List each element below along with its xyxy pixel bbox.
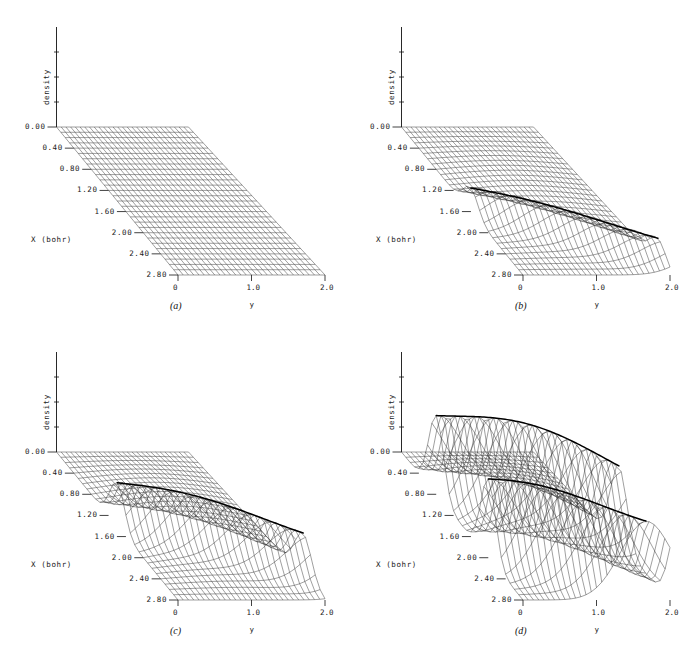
x-tick-label: 0.00	[357, 447, 391, 456]
x-tick-label: 2.00	[98, 228, 132, 237]
density-axis-label: density	[387, 69, 396, 105]
y-tick-label: 2.0	[665, 283, 679, 292]
y-tick-label: 2.0	[665, 608, 679, 617]
x-tick-label: 1.60	[81, 207, 115, 216]
mesh-surface	[57, 127, 326, 275]
x-tick-label: 1.60	[426, 207, 460, 216]
surface-panel-a: density0.000.400.801.201.602.002.402.80X…	[0, 0, 345, 325]
surface-panel-c: density0.000.400.801.201.602.002.402.80X…	[0, 325, 345, 650]
x-tick-label: 0.40	[29, 468, 63, 477]
x-tick-label: 1.20	[64, 185, 98, 194]
x-tick-label: 0.00	[12, 447, 46, 456]
x-tick-label: 2.00	[98, 553, 132, 562]
x-tick-label: 1.20	[409, 185, 443, 194]
surface-panel-d: density0.000.400.801.201.602.002.402.80X…	[345, 325, 690, 650]
x-tick-label: 1.20	[64, 510, 98, 519]
density-axis-label: density	[42, 69, 51, 105]
y-tick-label: 0	[518, 283, 523, 292]
x-tick-label: 0.40	[29, 143, 63, 152]
x-tick-label: 0.80	[46, 164, 80, 173]
x-tick-label: 2.00	[443, 228, 477, 237]
depth-axis-label: X (bohr)	[376, 560, 417, 569]
horizontal-axis-label: y	[595, 300, 600, 309]
x-tick-label: 0.80	[391, 164, 425, 173]
x-tick-label: 2.40	[116, 574, 150, 583]
x-tick-label: 2.80	[478, 270, 512, 279]
panel-caption: (b)	[515, 300, 527, 311]
panel-caption: (a)	[170, 300, 182, 311]
y-tick-label: 0	[518, 608, 523, 617]
depth-axis-label: X (bohr)	[31, 235, 72, 244]
x-tick-label: 2.40	[461, 574, 495, 583]
x-tick-label: 1.20	[409, 510, 443, 519]
x-tick-label: 1.60	[426, 532, 460, 541]
depth-axis-label: X (bohr)	[31, 560, 72, 569]
x-tick-label: 2.80	[133, 595, 167, 604]
y-tick-label: 0	[173, 608, 178, 617]
y-tick-label: 1.0	[247, 608, 261, 617]
depth-axis-label: X (bohr)	[376, 235, 417, 244]
x-tick-label: 2.40	[461, 249, 495, 258]
x-tick-label: 0.00	[357, 122, 391, 131]
x-tick-label: 2.40	[116, 249, 150, 258]
mesh-surface	[402, 127, 671, 275]
y-tick-label: 2.0	[320, 283, 334, 292]
mesh-surface	[402, 416, 671, 600]
x-tick-label: 2.00	[443, 553, 477, 562]
horizontal-axis-label: y	[250, 300, 255, 309]
x-tick-label: 0.80	[46, 489, 80, 498]
x-tick-label: 0.40	[374, 143, 408, 152]
y-tick-label: 1.0	[247, 283, 261, 292]
x-tick-label: 2.80	[478, 595, 512, 604]
density-axis-label: density	[42, 394, 51, 430]
y-tick-label: 2.0	[320, 608, 334, 617]
density-axis-label: density	[387, 394, 396, 430]
x-tick-label: 0.80	[391, 489, 425, 498]
y-tick-label: 1.0	[592, 283, 606, 292]
x-tick-label: 2.80	[133, 270, 167, 279]
panel-caption: (d)	[515, 625, 527, 636]
horizontal-axis-label: y	[595, 625, 600, 634]
panel-caption: (c)	[170, 625, 181, 636]
y-tick-label: 0	[173, 283, 178, 292]
y-tick-label: 1.0	[592, 608, 606, 617]
horizontal-axis-label: y	[250, 625, 255, 634]
x-tick-label: 0.00	[12, 122, 46, 131]
x-tick-label: 1.60	[81, 532, 115, 541]
surface-panel-b: density0.000.400.801.201.602.002.402.80X…	[345, 0, 690, 325]
x-tick-label: 0.40	[374, 468, 408, 477]
